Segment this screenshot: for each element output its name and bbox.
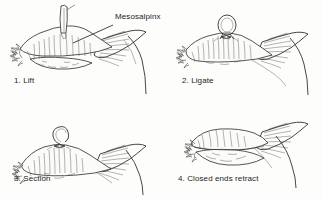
tube-proximal-segment-panel4: [191, 129, 268, 150]
tube-distal-segment-panel4: [194, 149, 264, 165]
caption-panel-section: 3. Section: [14, 174, 51, 183]
caption-panel-lift: 1. Lift: [14, 76, 34, 85]
broad-ligament-panel3: [94, 144, 146, 180]
uterine-border-panel1: [124, 36, 146, 94]
panel-section-drawing: [12, 127, 146, 195]
tubal-ligation-figure: [0, 0, 322, 199]
caption-panel-ligate: 2. Ligate: [182, 76, 214, 85]
caption-panel-retract: 4. Closed ends retract: [178, 174, 258, 183]
mesosalpinx-label: Mesosalpinx: [115, 12, 161, 21]
fallopian-tube-panel2: [186, 33, 272, 65]
